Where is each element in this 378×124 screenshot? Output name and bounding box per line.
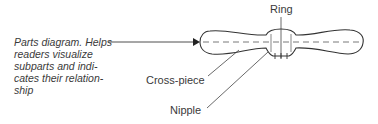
cross-piece-outline [200, 29, 363, 56]
ring-label: Ring [270, 3, 293, 15]
nipple-label: Nipple [170, 104, 201, 116]
cross-piece-label: Cross-piece [146, 74, 205, 86]
caption-arrow [108, 38, 200, 46]
nipple-leader-line [207, 52, 268, 108]
